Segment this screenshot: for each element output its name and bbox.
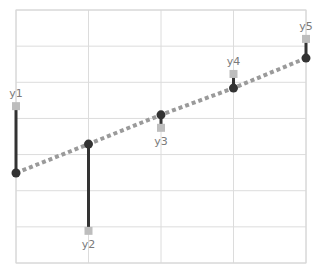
fitted-circle-marker (302, 54, 311, 63)
fitted-circle-marker (229, 84, 238, 93)
observed-square-marker (302, 35, 310, 43)
fitted-circle-marker (12, 169, 21, 178)
point-label-y1: y1 (9, 87, 23, 100)
fitted-circle-marker (157, 110, 166, 119)
point-label-y2: y2 (82, 238, 96, 251)
fitted-circle-marker (84, 140, 93, 149)
observed-square-marker (85, 227, 93, 235)
point-label-y4: y4 (227, 55, 241, 68)
point-label-y5: y5 (299, 20, 313, 33)
observed-square-marker (157, 124, 165, 132)
point-label-y3: y3 (154, 135, 168, 148)
observed-square-marker (12, 102, 20, 110)
observed-square-marker (230, 70, 238, 78)
residual-chart: y1 y2 y3 y4 y5 (0, 0, 321, 275)
